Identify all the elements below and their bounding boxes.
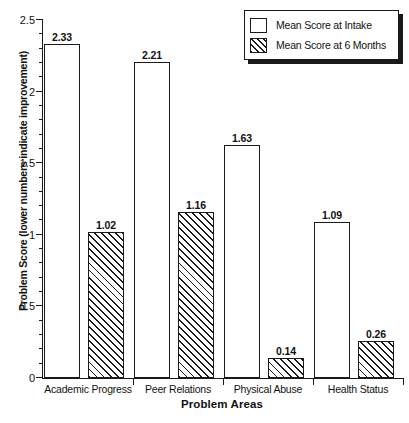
y-axis-tick-label: 1.5 [5,157,35,169]
y-axis-minor-tick [39,177,43,178]
y-axis-minor-tick [39,277,43,278]
y-axis-minor-tick [39,348,43,349]
y-axis-minor-tick [39,76,43,77]
y-axis-tick [36,234,43,235]
y-axis-minor-tick [39,119,43,120]
x-axis-category-label: Health Status [328,383,388,395]
bar-intake: 2.33 [44,44,80,378]
y-axis-minor-tick [39,248,43,249]
legend-swatch-six-months-icon [250,38,267,53]
y-axis-minor-tick [39,291,43,292]
bar-value-label: 1.16 [186,199,206,211]
bar-six-months: 1.16 [178,212,214,378]
plot-area: 00.511.522.52.331.02Academic Progress2.2… [42,20,403,379]
y-axis-tick-label: 0 [5,372,35,384]
bar-intake: 2.21 [134,62,170,378]
legend-box: Mean Score at Intake Mean Score at 6 Mon… [244,10,399,60]
y-axis-minor-tick [39,320,43,321]
y-axis-minor-tick [39,191,43,192]
bar-value-label: 1.63 [232,132,252,144]
legend-label-intake: Mean Score at Intake [276,19,372,31]
bar-intake: 1.09 [314,222,350,378]
bar-value-label: 0.14 [276,345,296,357]
bar-value-label: 0.26 [366,328,386,340]
bar-chart-figure: Problem Score (lower numbers indicate im… [0,0,409,423]
y-axis-tick [36,162,43,163]
bar-six-months: 0.14 [268,358,304,378]
y-axis-minor-tick [39,62,43,63]
y-axis-minor-tick [39,262,43,263]
bar-six-months: 0.26 [358,341,394,378]
y-axis-minor-tick [39,134,43,135]
y-axis-minor-tick [39,219,43,220]
x-axis-tick [403,378,404,385]
bar-intake: 1.63 [224,145,260,378]
y-axis-minor-tick [39,33,43,34]
x-axis-label: Problem Areas [42,398,402,410]
bar-value-label: 1.09 [322,209,342,221]
x-axis-tick [223,378,224,385]
y-axis-tick [36,305,43,306]
y-axis-tick-label: 0.5 [5,300,35,312]
x-axis-category-label: Physical Abuse [234,383,302,395]
bar-value-label: 1.02 [96,219,116,231]
y-axis-tick-label: 1 [5,229,35,241]
y-axis-minor-tick [39,148,43,149]
legend-label-six-months: Mean Score at 6 Months [276,39,386,51]
y-axis-tick-label: 2.5 [5,14,35,26]
legend-swatch-intake-icon [250,18,267,33]
y-axis-tick-label: 2 [5,86,35,98]
x-axis-category-label: Academic Progress [44,383,132,395]
y-axis-minor-tick [39,48,43,49]
legend-item-intake: Mean Score at Intake [250,15,393,35]
chart-legend: Mean Score at Intake Mean Score at 6 Mon… [244,10,404,64]
y-axis-tick [36,377,43,378]
x-axis-category-label: Peer Relations [145,383,211,395]
x-axis-tick [133,378,134,385]
y-axis-label: Problem Score (lower numbers indicate im… [17,16,29,346]
legend-item-six-months: Mean Score at 6 Months [250,35,393,55]
x-axis-tick [313,378,314,385]
bar-value-label: 2.21 [142,49,162,61]
y-axis-tick [36,19,43,20]
bar-value-label: 2.33 [52,31,72,43]
y-axis-minor-tick [39,363,43,364]
y-axis-tick [36,91,43,92]
bar-six-months: 1.02 [88,232,124,378]
y-axis-minor-tick [39,105,43,106]
y-axis-minor-tick [39,334,43,335]
y-axis-minor-tick [39,205,43,206]
